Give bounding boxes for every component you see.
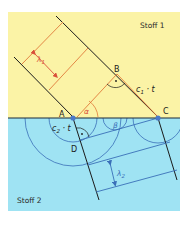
alpha-label: α <box>84 107 89 116</box>
stoff2-label: Stoff 2 <box>17 196 42 205</box>
stoff1-label: Stoff 1 <box>140 21 165 30</box>
right-angle-dot <box>81 133 83 135</box>
point-d-label: D <box>71 145 77 154</box>
point-a-label: A <box>59 110 65 119</box>
point-a-marker <box>70 115 75 120</box>
point-b-label: B <box>114 65 120 74</box>
c2t-label: c2 · t <box>52 124 72 134</box>
point-c-label: C <box>163 107 169 116</box>
point-c-marker <box>155 115 160 120</box>
beta-label: β <box>113 121 118 130</box>
c1t-label: c1 · t <box>136 85 156 95</box>
right-angle-dot <box>115 80 117 82</box>
refraction-diagram: Stoff 1 Stoff 2 A B C D λ1 λ2 α β c1 · t… <box>0 0 189 227</box>
